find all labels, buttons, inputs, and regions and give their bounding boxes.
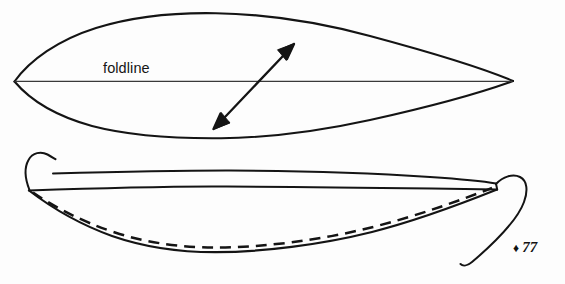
diamond-icon: ♦ — [513, 241, 519, 253]
upper-outline-top-curve — [15, 13, 514, 81]
upper-outline-bottom-curve — [15, 81, 514, 138]
pattern-diagram-illustration — [0, 0, 565, 284]
lower-figure-upper-edge — [53, 171, 496, 184]
page-folio-marker: ♦ 77 — [513, 240, 537, 255]
grain-arrow-shaft — [216, 47, 292, 127]
foldline-label: foldline — [103, 60, 150, 76]
page-number: 77 — [522, 240, 537, 255]
diagram-page: foldline ♦ 77 — [0, 0, 565, 284]
upper-figure-group — [15, 13, 514, 138]
thread-anchor-right — [496, 184, 497, 190]
lower-figure-group — [26, 153, 527, 266]
lower-figure-bottom-edge — [29, 190, 497, 253]
lower-figure-fold-edge — [29, 187, 497, 191]
grain-arrow — [213, 44, 295, 130]
thread-tail-left — [26, 153, 56, 190]
